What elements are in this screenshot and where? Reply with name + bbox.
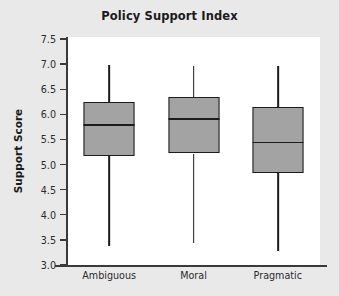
upper-whisker xyxy=(193,66,195,98)
y-tick-label: 6.0 xyxy=(26,109,56,120)
box-iqr-rect xyxy=(84,102,135,156)
median-line xyxy=(252,142,303,144)
y-tick-mark xyxy=(60,214,66,215)
x-tick-label-ambiguous: Ambiguous xyxy=(82,270,136,281)
y-tick-label: 5.0 xyxy=(26,159,56,170)
median-line xyxy=(168,118,219,120)
y-tick-mark xyxy=(60,89,66,90)
y-tick-mark xyxy=(60,139,66,140)
y-tick-label: 3.0 xyxy=(26,260,56,271)
y-tick-mark xyxy=(60,114,66,115)
y-tick-mark xyxy=(60,164,66,165)
lower-whisker xyxy=(277,173,279,251)
x-tick-label-moral: Moral xyxy=(180,270,207,281)
y-tick-label: 6.5 xyxy=(26,84,56,95)
box-iqr-rect xyxy=(168,97,219,153)
y-tick-mark xyxy=(60,239,66,240)
lower-whisker xyxy=(193,154,195,244)
upper-whisker xyxy=(277,66,279,108)
y-tick-mark xyxy=(60,38,66,39)
box-plot-item[interactable] xyxy=(84,0,135,296)
y-axis-spine xyxy=(66,37,68,266)
lower-whisker xyxy=(108,156,110,246)
y-tick-mark xyxy=(60,63,66,64)
y-tick-label: 4.5 xyxy=(26,184,56,195)
y-tick-label: 7.0 xyxy=(26,59,56,70)
upper-whisker xyxy=(108,65,110,102)
box-iqr-rect xyxy=(252,107,303,173)
box-plot-item[interactable] xyxy=(168,0,219,296)
median-line xyxy=(84,124,135,126)
y-tick-label: 5.5 xyxy=(26,134,56,145)
box-plot-item[interactable] xyxy=(252,0,303,296)
x-tick-label-pragmatic: Pragmatic xyxy=(254,270,302,281)
box-plot-figure: Policy Support Index Support Score 7.57.… xyxy=(0,0,339,296)
y-tick-label: 7.5 xyxy=(26,34,56,45)
y-tick-label: 3.5 xyxy=(26,234,56,245)
y-tick-label: 4.0 xyxy=(26,209,56,220)
y-tick-mark xyxy=(60,264,66,265)
y-axis-label: Support Score xyxy=(12,91,24,211)
y-tick-mark xyxy=(60,189,66,190)
